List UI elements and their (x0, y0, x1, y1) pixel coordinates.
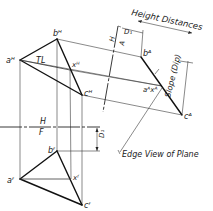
label-b-front: bᶠ (48, 146, 56, 155)
label-ref-ha-h: H (108, 35, 117, 42)
edge-view-leader (118, 88, 162, 154)
label-d1-aux: D₁ (124, 28, 132, 36)
label-ref-f: F (39, 128, 44, 137)
d1-front-dimension (57, 128, 100, 151)
label-c-front: cᶠ (84, 201, 91, 210)
label-b-top: bᴴ (53, 29, 62, 38)
label-c-top: cᴴ (84, 89, 92, 98)
label-x-front: xᶠ (72, 174, 79, 182)
label-x-top: xᴴ (71, 61, 80, 69)
label-true-length: TL (36, 56, 45, 65)
label-ax-aux: aᴬxᴬ (143, 86, 157, 94)
label-a-front: aᶠ (7, 176, 15, 185)
label-slope-dip: Slope (Dip) (163, 53, 182, 98)
label-height-distances: Height Distances (131, 7, 204, 32)
label-b-aux: bᴬ (143, 49, 152, 58)
label-ref-ha-a: A (118, 40, 127, 47)
label-c-aux: cᴬ (184, 112, 192, 121)
label-edge-view: Edge View of Plane (122, 150, 199, 159)
label-d1-front: D₁ (98, 130, 106, 138)
edge-view-diagram: aᴴ bᴴ cᴴ xᴴ TL H F D₁ aᶠ bᶠ cᶠ xᶠ bᴬ aᴬx… (0, 0, 213, 211)
label-a-top: aᴴ (6, 56, 15, 65)
projection-lines-auxiliary (20, 39, 182, 115)
label-ref-h: H (40, 117, 46, 126)
